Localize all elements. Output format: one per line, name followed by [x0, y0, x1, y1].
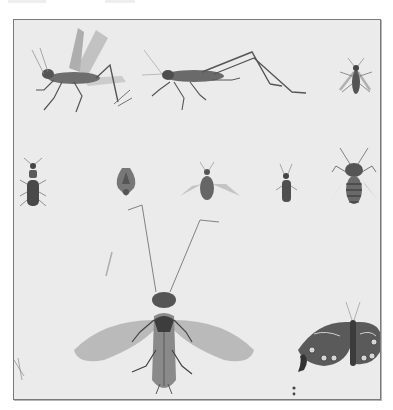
specimen-shield-bug: [117, 168, 136, 196]
insect-plate: Engraved natural history plate of insect…: [13, 19, 381, 400]
specimen-long-legged-grasshopper: [142, 50, 306, 110]
specimen-small-beetle: [276, 164, 297, 202]
specimen-moth: [298, 302, 380, 366]
specimen-bee: [328, 148, 378, 206]
plate-illustration: [14, 20, 380, 399]
specimen-caterpillar: [292, 354, 307, 395]
specimen-winged-grasshopper: [32, 28, 132, 112]
specimen-partial-left-edge: [14, 358, 24, 380]
specimen-small-bug-top-right: [340, 58, 372, 94]
specimen-lacewing: [74, 205, 254, 394]
specimen-beetle-left: [20, 158, 46, 206]
specimen-winged-fly: [180, 162, 240, 200]
cropped-text-strip: [0, 0, 393, 6]
